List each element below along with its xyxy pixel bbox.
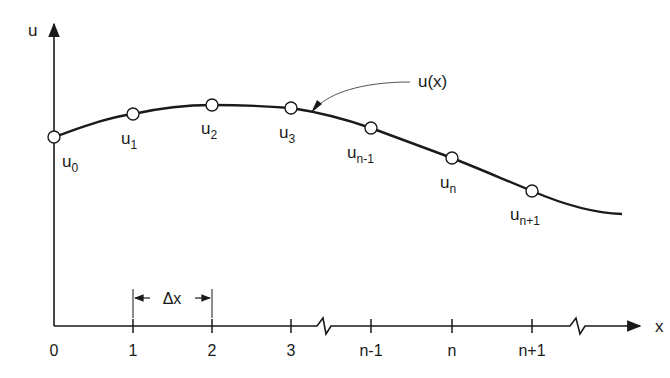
- node-label-un-1: un-1: [347, 143, 374, 166]
- node-label-un+1: un+1: [510, 205, 540, 228]
- x-axis-line-with-breaks: [54, 318, 640, 334]
- node-label-un: un: [440, 173, 456, 196]
- node-u1: [127, 108, 139, 120]
- delta-x-label: Δx: [163, 290, 182, 307]
- node-label-u3: u3: [279, 123, 295, 146]
- callout-arrow-icon: [311, 100, 322, 113]
- curve-u-of-x: [54, 105, 622, 214]
- node-un: [446, 152, 458, 164]
- tick-label-n+1: n+1: [518, 342, 545, 359]
- node-u0: [48, 131, 60, 143]
- tick-label-1: 1: [129, 342, 138, 359]
- tick-label-n-1: n-1: [359, 342, 382, 359]
- finite-difference-diagram: u x 0 1 2 3 n-1 n n+1 Δx u(x): [0, 0, 670, 378]
- x-ticks: 0 1 2 3 n-1 n n+1: [50, 319, 546, 359]
- tick-label-0: 0: [50, 342, 59, 359]
- y-axis-label: u: [28, 21, 37, 40]
- node-u3: [285, 102, 297, 114]
- node-u2: [206, 99, 218, 111]
- node-label-u0: u0: [62, 152, 78, 175]
- x-axis: x: [54, 317, 664, 336]
- x-axis-label: x: [655, 317, 664, 336]
- curve-label: u(x): [418, 72, 447, 91]
- node-un+1: [526, 185, 538, 197]
- tick-label-n: n: [448, 342, 457, 359]
- node-un-1: [365, 122, 377, 134]
- tick-label-2: 2: [208, 342, 217, 359]
- node-label-u1: u1: [121, 129, 137, 152]
- node-label-u2: u2: [201, 119, 217, 142]
- curve-label-callout: u(x): [311, 72, 447, 113]
- tick-label-3: 3: [287, 342, 296, 359]
- grid-nodes: [48, 99, 538, 197]
- delta-x-dimension: Δx: [133, 289, 212, 318]
- node-labels: u0 u1 u2 u3 un-1 un un+1: [62, 119, 540, 228]
- y-axis: u: [28, 21, 54, 326]
